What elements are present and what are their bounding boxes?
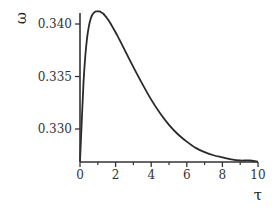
x-tick-label: 2 (112, 168, 120, 182)
y-axis-label: ω (12, 12, 30, 24)
x-tick-label: 6 (183, 168, 191, 182)
x-axis-label: τ (254, 186, 262, 204)
y-tick-label: 0.340 (38, 17, 72, 31)
y-tick-label: 0.335 (38, 70, 72, 84)
y-tick-label: 0.330 (38, 122, 72, 136)
series-line (80, 11, 258, 161)
x-tick-label: 0 (76, 168, 84, 182)
axes: 0.3300.3350.3400246810 (38, 13, 266, 182)
plot-area (80, 11, 258, 161)
x-tick-label: 8 (219, 168, 227, 182)
x-tick-label: 10 (250, 168, 265, 182)
line-chart: 0.3300.3350.3400246810 ω τ (0, 0, 276, 214)
x-tick-label: 4 (147, 168, 155, 182)
